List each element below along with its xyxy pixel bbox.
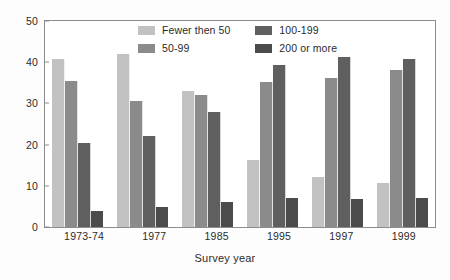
bar[interactable] [182,91,195,227]
legend-entry[interactable]: 50-99 [138,42,241,54]
x-axis-title: Survey year [0,252,450,264]
x-axis-tick-label: 1997 [329,230,353,246]
bar-chart-figure: 01020304050 1973-7419771985199519971999 … [0,0,450,280]
bar[interactable] [65,81,78,227]
y-axis-tick-label: 40 [26,56,38,68]
bar[interactable] [325,78,338,227]
y-axis-tick-label: 0 [32,221,38,233]
legend-swatch-icon [138,44,155,53]
bar[interactable] [156,207,168,227]
bar[interactable] [273,65,286,227]
legend-swatch-icon [255,44,272,53]
legend-label: 200 or more [279,42,337,54]
x-axis-tick-label: 1999 [392,230,416,246]
x-axis-tick-label: 1973-74 [64,230,104,246]
x-axis-tick-label: 1995 [267,230,291,246]
bar[interactable] [390,70,403,227]
bar[interactable] [117,54,130,227]
bar[interactable] [286,198,298,227]
legend-swatch-icon [255,26,272,35]
bar[interactable] [130,101,143,227]
bar[interactable] [221,202,233,227]
chart-legend: Fewer then 50100-19950-99200 or more [138,24,348,54]
bar[interactable] [338,57,351,227]
bar[interactable] [351,199,363,227]
y-axis-tick-label: 20 [26,139,38,151]
bar[interactable] [195,95,208,227]
bar-group [377,21,428,227]
x-axis-tick-labels: 1973-7419771985199519971999 [45,230,435,246]
y-axis-tick-label: 10 [26,180,38,192]
bar[interactable] [403,59,416,227]
bar[interactable] [78,143,91,227]
x-axis-tick-label: 1977 [142,230,166,246]
bar[interactable] [143,136,156,227]
bar[interactable] [247,160,260,227]
legend-swatch-icon [138,26,155,35]
bar[interactable] [52,59,65,227]
legend-label: 50-99 [162,42,189,54]
legend-label: 100-199 [279,24,318,36]
bar[interactable] [91,211,103,227]
bar[interactable] [208,112,221,227]
bar[interactable] [312,177,325,227]
bar[interactable] [377,183,390,227]
x-axis-tick-label: 1985 [205,230,229,246]
y-axis-tick-label: 30 [26,97,38,109]
bar[interactable] [260,82,273,227]
legend-entry[interactable]: 200 or more [255,42,348,54]
legend-label: Fewer then 50 [162,24,230,36]
y-axis: 01020304050 [0,20,44,228]
y-axis-tick-label: 50 [26,15,38,27]
legend-entry[interactable]: 100-199 [255,24,348,36]
bar[interactable] [416,198,428,227]
bar-group [52,21,103,227]
legend-entry[interactable]: Fewer then 50 [138,24,241,36]
